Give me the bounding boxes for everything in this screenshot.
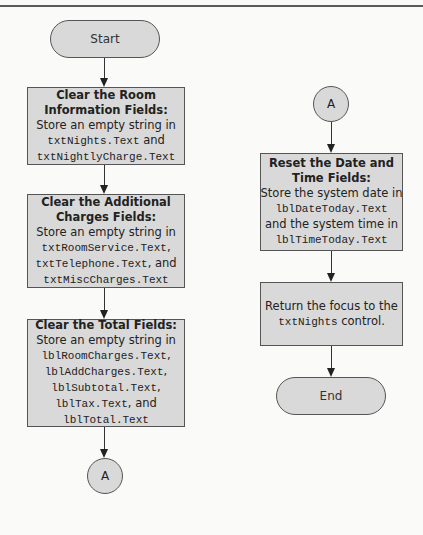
process-reset-date-time: Reset the Date and Time Fields: Store th… <box>260 153 403 251</box>
offpage-connector-a-out: A <box>87 458 123 494</box>
step-title: Clear the Total Fields: <box>35 318 177 333</box>
arrow-down-icon <box>327 273 335 282</box>
code-text: lblTotal.Text <box>63 414 149 426</box>
step-text: , <box>167 348 171 362</box>
connector-line <box>104 427 105 449</box>
code-text: txtNightlyCharge.Text <box>37 151 176 163</box>
offpage-connector-a-in: A <box>313 86 349 122</box>
connector-line <box>331 122 332 144</box>
start-terminal: Start <box>50 20 160 58</box>
code-text: lblDateToday.Text <box>275 203 387 215</box>
connector-label: A <box>101 469 109 483</box>
step-title: Clear the Room <box>56 88 156 103</box>
code-text: txtNights.Text <box>47 135 139 147</box>
arrow-down-icon <box>327 368 335 377</box>
process-clear-room-fields: Clear the Room Information Fields: Store… <box>27 87 185 165</box>
step-text: Store an empty string in <box>36 333 176 348</box>
arrow-down-icon <box>327 144 335 153</box>
step-text: Return the focus to the <box>265 299 398 314</box>
arrow-down-icon <box>100 449 108 458</box>
step-text: control. <box>338 314 385 328</box>
step-title: Charges Fields: <box>56 210 156 225</box>
arrow-down-icon <box>100 78 108 87</box>
arrow-down-icon <box>100 185 108 194</box>
step-text: Store the system date in <box>261 186 403 201</box>
step-text: , <box>167 240 171 254</box>
step-text: , <box>157 380 161 394</box>
step-title: Clear the Additional <box>41 195 171 210</box>
connector-line <box>331 251 332 273</box>
connector-label: A <box>327 97 335 111</box>
step-text: Store an empty string in <box>36 225 176 240</box>
code-text: lblRoomCharges.Text <box>41 350 166 362</box>
connector-line <box>104 58 105 78</box>
step-title: Reset the Date and <box>269 156 394 171</box>
connector-line <box>104 165 105 185</box>
start-label: Start <box>90 32 119 46</box>
step-text: , and <box>148 256 177 270</box>
code-text: lblAddCharges.Text <box>45 366 164 378</box>
code-text: txtRoomService.Text <box>41 242 166 254</box>
top-rule <box>0 5 423 7</box>
step-text: Store an empty string in <box>36 118 176 133</box>
process-clear-total-fields: Clear the Total Fields: Store an empty s… <box>27 319 185 427</box>
step-text: , and <box>128 396 157 410</box>
step-text: and <box>140 133 165 147</box>
step-text: , <box>164 364 168 378</box>
code-text: lblTax.Text <box>55 398 128 410</box>
step-title: Time Fields: <box>292 171 371 186</box>
connector-line <box>104 288 105 310</box>
end-terminal: End <box>276 377 386 415</box>
step-title: Information Fields: <box>44 103 168 118</box>
process-clear-additional-charges: Clear the Additional Charges Fields: Sto… <box>27 194 185 288</box>
end-label: End <box>320 389 343 403</box>
step-text: and the system time in <box>265 217 398 232</box>
connector-line <box>331 346 332 368</box>
code-text: lblSubtotal.Text <box>51 382 157 394</box>
code-text: txtTelephone.Text <box>35 258 147 270</box>
code-text: lblTimeToday.Text <box>275 234 387 246</box>
process-return-focus: Return the focus to the txtNights contro… <box>260 282 403 346</box>
code-text: txtNights <box>278 316 337 328</box>
code-text: txtMiscCharges.Text <box>43 274 168 286</box>
